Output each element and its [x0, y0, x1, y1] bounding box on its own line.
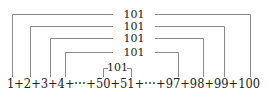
sum-equation: 1+2+3+4+⋯+50+51+⋯+97+98+99+100 [7, 75, 260, 91]
pair-sum-label: 101 [124, 32, 145, 45]
pair-sum-label: 101 [124, 46, 145, 59]
pairing-diagram: 101 101 101 101 101 1+2+3+4+⋯+50+51+⋯+97… [0, 0, 268, 99]
pair-sum-label: 101 [107, 61, 128, 74]
